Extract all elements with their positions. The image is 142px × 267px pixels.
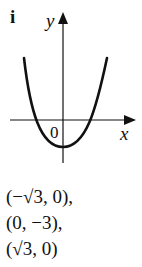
x-axis-label: x bbox=[119, 123, 129, 144]
intercepts-list: (−√3, 0), (0, −3), (√3, 0) bbox=[6, 184, 73, 262]
y-axis-arrow-icon bbox=[58, 12, 68, 24]
parabola-graph: y x 0 bbox=[0, 0, 142, 170]
origin-label: 0 bbox=[50, 123, 59, 142]
y-axis-label: y bbox=[44, 10, 55, 31]
intercept-x-negative: (−√3, 0), bbox=[6, 184, 73, 210]
intercept-x-positive: (√3, 0) bbox=[6, 236, 73, 262]
intercept-y: (0, −3), bbox=[6, 210, 73, 236]
parabola-curve bbox=[24, 58, 107, 147]
